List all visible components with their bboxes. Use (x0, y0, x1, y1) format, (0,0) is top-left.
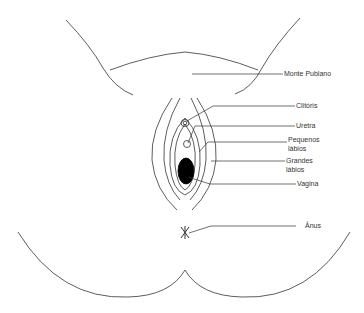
label-clitoris: Clitóris (296, 102, 317, 110)
label-anus: Ânus (305, 222, 321, 230)
label-pequenos-labios-line1: Pequenos (288, 136, 320, 144)
pubic-mound-outline (110, 52, 258, 70)
left-buttock-outline (18, 232, 185, 297)
leader-vagina (188, 177, 296, 184)
leader-pequenos-labios (199, 142, 287, 152)
leader-anus (189, 226, 296, 233)
label-grandes-labios-line2: lábios (286, 166, 304, 174)
right-thigh-line (235, 18, 300, 94)
labia-majora-left (152, 98, 177, 210)
vaginal-opening (178, 158, 194, 184)
leader-lines (187, 74, 296, 233)
label-uretra: Uretra (296, 122, 315, 130)
label-vagina: Vagina (297, 180, 318, 188)
outer-fold-left (164, 98, 180, 200)
outer-fold-right (190, 98, 206, 200)
label-grandes-labios-line1: Grandes (286, 157, 313, 165)
anus-mark (181, 226, 189, 239)
left-thigh-line (66, 20, 133, 95)
label-monte-pubiano: Monte Publano (284, 70, 331, 78)
label-pequenos-labios-line2: lábios (288, 145, 306, 153)
urethra-opening (184, 141, 191, 148)
right-buttock-outline (185, 232, 350, 297)
